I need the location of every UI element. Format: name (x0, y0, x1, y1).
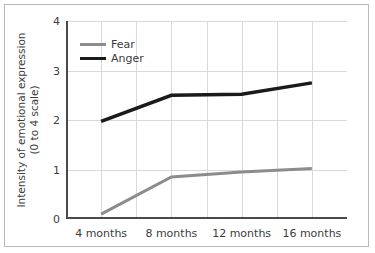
legend-label: Fear (111, 39, 135, 50)
plot-area: 01234 4 months8 months12 months16 months… (66, 21, 347, 219)
y-axis-tick-label: 4 (53, 15, 60, 28)
series-line-anger (101, 83, 312, 122)
legend-swatch-anger (80, 57, 106, 60)
x-axis-tick-label: 16 months (282, 227, 341, 240)
y-axis-tick-label: 0 (53, 213, 60, 226)
y-axis-title-line-1: Intensity of emotional expression (15, 32, 28, 207)
x-axis-tick-label: 12 months (212, 227, 271, 240)
legend-item-fear: Fear (80, 39, 144, 50)
series-line-fear (101, 169, 312, 215)
legend-label: Anger (111, 53, 144, 64)
y-axis-tick-label: 1 (53, 163, 60, 176)
chart-figure: Intensity of emotional expression (0 to … (4, 4, 369, 247)
y-axis-tick-label: 2 (53, 114, 60, 127)
x-axis-tick-label: 8 months (145, 227, 197, 240)
y-axis-title: Intensity of emotional expression (0 to … (13, 21, 43, 219)
y-axis-tick-label: 3 (53, 64, 60, 77)
legend-swatch-fear (80, 43, 106, 46)
x-axis-tick-label: 4 months (75, 227, 127, 240)
legend-item-anger: Anger (80, 53, 144, 64)
chart-legend: FearAnger (80, 39, 144, 64)
y-axis-title-line-2: (0 to 4 scale) (28, 85, 41, 154)
